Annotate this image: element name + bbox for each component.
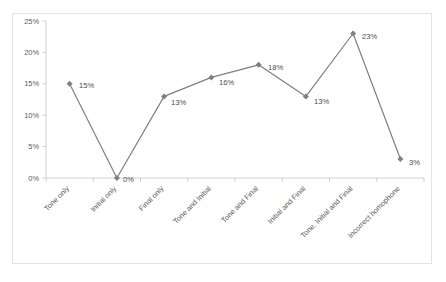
x-category-label: Final only xyxy=(137,184,166,213)
data-point-labels: 15% 0% 13% 16% 18% 13% 23% 3% xyxy=(79,32,420,184)
data-label: 13% xyxy=(314,97,329,106)
data-line-series-1 xyxy=(70,34,401,179)
x-category-label: Tone and Initial xyxy=(171,184,213,226)
data-point-marker xyxy=(67,81,73,87)
x-category-label: Tone, Initial and Final xyxy=(299,184,355,240)
data-label: 15% xyxy=(79,81,94,90)
x-category-label: Tone only xyxy=(42,184,71,213)
data-point-marker xyxy=(397,156,403,162)
y-axis-ticks xyxy=(42,21,46,178)
x-axis-category-labels: Tone only Initial only Final only Tone a… xyxy=(42,184,402,240)
y-tick-label: 5% xyxy=(28,142,39,151)
data-label: 0% xyxy=(123,175,134,184)
x-category-label: Initial only xyxy=(89,184,119,214)
y-tick-label: 10% xyxy=(24,111,39,120)
data-point-markers xyxy=(67,31,404,182)
y-tick-label: 0% xyxy=(28,174,39,183)
x-category-label: Incorrect homophone xyxy=(346,184,402,240)
data-point-marker xyxy=(208,74,214,80)
y-axis-tick-labels: 25% 20% 15% 10% 5% 0% xyxy=(24,17,39,183)
y-tick-label: 15% xyxy=(24,79,39,88)
x-axis-ticks xyxy=(46,178,424,182)
data-label: 13% xyxy=(171,98,186,107)
y-tick-label: 20% xyxy=(24,48,39,57)
data-point-marker xyxy=(161,93,167,99)
data-label: 18% xyxy=(268,63,283,72)
data-label: 3% xyxy=(409,158,420,167)
line-chart: 25% 20% 15% 10% 5% 0% 15% 0% 13% 16% 1 xyxy=(0,0,446,282)
x-category-label: Initial and Final xyxy=(266,184,308,226)
data-point-marker xyxy=(114,175,120,181)
y-tick-label: 25% xyxy=(24,17,39,26)
data-label: 16% xyxy=(219,78,234,87)
x-category-label: Tone and Final xyxy=(219,184,260,225)
data-label: 23% xyxy=(362,32,377,41)
